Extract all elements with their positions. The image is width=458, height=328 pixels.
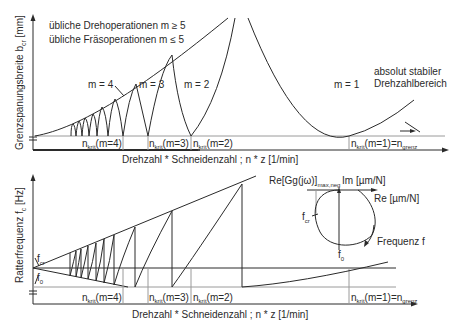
- top-y-label: Grenzspanungsbreite bcr [mm]: [14, 15, 27, 150]
- top-x-arrow-icon: [442, 148, 449, 153]
- bottom-y-label: Ratterfrequenz fc [Hz]: [14, 187, 27, 283]
- lobe-label-m3: m = 3: [139, 79, 165, 90]
- legend-milling: übliche Fräsoperationen m ≤ 5: [49, 34, 184, 45]
- bottom-chart: [29, 174, 418, 307]
- top-ncrit-m4: nkrit(m=4): [82, 138, 122, 150]
- stable-range-label-2: Drehzahlbereich: [374, 78, 447, 89]
- top-ncrit-m1: nkrit(m=1)=ngrenz: [351, 138, 417, 150]
- im-label: Im [µm/N]: [342, 175, 386, 186]
- top-ncrit-m3: nkrit(m=3): [149, 138, 189, 150]
- top-x-label: Drehzahl * Schneidenzahl ; n * z [1/min]: [122, 154, 298, 165]
- inset-f0-label: f0: [338, 249, 345, 262]
- bottom-ncrit-m2: nkrit(m=2): [193, 292, 233, 304]
- f0-label: f0: [37, 272, 44, 285]
- stable-range-arrow-icon: [410, 129, 416, 133]
- re-arrow-icon: [371, 188, 378, 192]
- re-label: Re [µm/N]: [374, 193, 419, 204]
- frequency-label: Frequenz f: [377, 236, 425, 247]
- nyquist-inset: [307, 187, 378, 250]
- re-max-label: Re[Gg(jω)]max,neg: [269, 175, 340, 188]
- lobe-label-m4: m = 4: [88, 79, 114, 90]
- bottom-x-label: Drehzahl * Schneidenzahl ; n * z [1/min]: [132, 309, 308, 320]
- stable-range-label-1: absolut stabiler: [374, 66, 442, 77]
- inset-fcr-label: fcr: [302, 211, 310, 224]
- nyquist-circle: [315, 190, 375, 245]
- bottom-ncrit-m3: nkrit(m=3): [149, 292, 189, 304]
- top-ncrit-m2: nkrit(m=2): [193, 138, 233, 150]
- stability-lobe-diagram: Grenzspanungsbreite bcr [mm] übliche Dre…: [0, 0, 458, 328]
- bottom-ncrit-m1: nkrit(m=1)=ngrenz: [351, 292, 417, 304]
- bottom-ncrit-m4: nkrit(m=4): [82, 292, 122, 304]
- bottom-y-arrow-icon: [31, 174, 36, 181]
- legend-turning: übliche Drehoperationen m ≥ 5: [49, 20, 186, 31]
- lobe-label-m2: m = 2: [184, 79, 210, 90]
- lobe-label-m1: m = 1: [334, 79, 360, 90]
- top-y-arrow-icon: [31, 14, 36, 21]
